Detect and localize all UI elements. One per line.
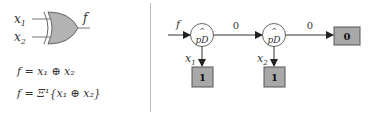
input-label-f: f [175, 18, 182, 31]
node1-variable-label: x1 [185, 52, 196, 67]
edge-label-node1-node2: 0 [233, 20, 239, 31]
decision-diagram: f ^ pD 0 ^ pD 0 0 x1 1 x2 1 [151, 0, 378, 116]
edge-label-node2-term0: 0 [307, 20, 313, 31]
input-label-x2: x2 [14, 30, 26, 46]
terminal-0-value: 0 [344, 31, 351, 42]
xor-gate-icon [48, 12, 78, 44]
decision-diagram-panel: f ^ pD 0 ^ pD 0 0 x1 1 x2 1 [151, 0, 378, 116]
xor-back-curve [44, 12, 48, 44]
node2-label: pD [268, 35, 281, 45]
node1-hat-symbol: ^ [199, 26, 206, 35]
terminal-1a-value: 1 [199, 72, 206, 83]
input-label-x1: x1 [14, 12, 26, 28]
equation-xi-transform: f = Ξ¹{x₁ ⊕ x₂} [17, 87, 101, 100]
equation-xor: f = x₁ ⊕ x₂ [17, 65, 75, 78]
node1-label: pD [196, 35, 209, 45]
node2-hat-symbol: ^ [271, 26, 278, 35]
output-label-f: f [82, 11, 90, 25]
terminal-1b-value: 1 [271, 72, 278, 83]
node2-variable-label: x2 [257, 52, 268, 67]
logic-gate-panel: x1 x2 f f = x₁ ⊕ x₂ f = Ξ¹{x₁ ⊕ x₂} [0, 0, 150, 116]
